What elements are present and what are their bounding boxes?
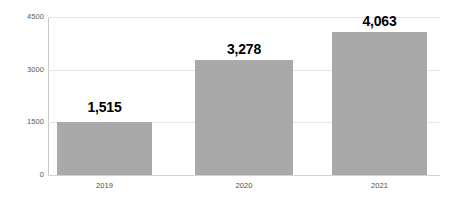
category-label-2020: 2020 (195, 182, 293, 190)
category-label-2021: 2021 (332, 182, 427, 190)
bar-value-2021: 4,063 (332, 14, 427, 28)
bar-2019[interactable] (57, 122, 152, 175)
y-tick-label-4500: 4500 (4, 13, 44, 21)
category-label-2019: 2019 (57, 182, 152, 190)
bar-2020[interactable] (195, 60, 293, 175)
bar-chart: 4500 3000 1500 0 1,515 3,278 4,063 2019 … (0, 0, 461, 201)
y-tick-label-0: 0 (4, 171, 44, 179)
bar-value-2019: 1,515 (57, 100, 152, 114)
y-tick-label-3000: 3000 (4, 66, 44, 74)
bar-value-2020: 3,278 (195, 42, 293, 56)
gridline-baseline-0 (48, 175, 440, 176)
bar-2021[interactable] (332, 32, 427, 175)
y-tick-label-1500: 1500 (4, 119, 44, 127)
y-axis-tick-labels: 4500 3000 1500 0 (0, 17, 44, 175)
